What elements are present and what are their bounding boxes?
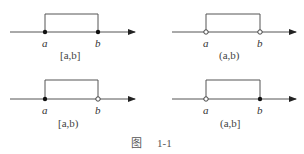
closed-endpoint-dot-icon: [43, 30, 47, 34]
interval-figure: a b [a,b] a b (a,b) a b [a,b) a b (a,b] …: [0, 0, 304, 154]
endpoint-label-a: a: [42, 37, 48, 49]
interval-bracket: [45, 80, 98, 99]
interval-bracket: [206, 80, 260, 99]
endpoint-label-b: b: [95, 37, 101, 49]
caption-number: 1-1: [157, 137, 172, 149]
open-endpoint-circle-icon: [258, 30, 262, 34]
endpoint-label-a: a: [42, 104, 48, 116]
endpoint-label-a: a: [203, 37, 209, 49]
interval-notation: (a,b): [219, 49, 240, 62]
endpoint-label-b: b: [257, 104, 263, 116]
closed-endpoint-dot-icon: [43, 97, 47, 101]
endpoint-label-b: b: [95, 104, 101, 116]
open-endpoint-circle-icon: [204, 30, 208, 34]
interval-bracket: [206, 14, 260, 30]
open-endpoint-circle-icon: [96, 97, 100, 101]
panel-closed-interval: a b [a,b]: [10, 14, 135, 61]
endpoint-label-b: b: [257, 37, 263, 49]
endpoint-label-a: a: [203, 104, 209, 116]
panel-open-interval: a b (a,b): [172, 14, 296, 62]
panel-right-closed-interval: a b (a,b]: [172, 80, 296, 130]
interval-notation: (a,b]: [220, 117, 240, 130]
closed-endpoint-dot-icon: [258, 97, 262, 101]
caption-prefix: 图: [131, 137, 142, 149]
open-endpoint-circle-icon: [204, 97, 208, 101]
interval-bracket: [45, 14, 98, 32]
figure-caption: 图 1-1: [131, 137, 172, 149]
interval-notation: [a,b]: [60, 49, 80, 61]
closed-endpoint-dot-icon: [96, 30, 100, 34]
panel-left-closed-interval: a b [a,b): [10, 80, 135, 130]
interval-notation: [a,b): [58, 117, 79, 130]
